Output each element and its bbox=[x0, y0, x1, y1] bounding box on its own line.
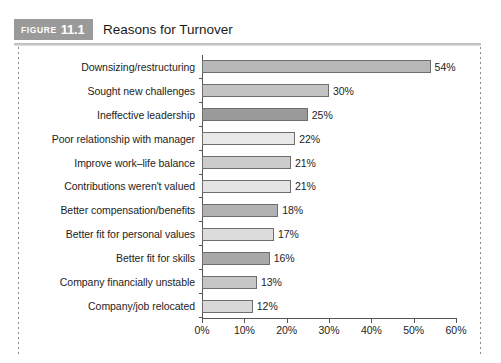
bars-list: 54%30%25%22%21%21%18%17%16%13%12% bbox=[202, 55, 470, 318]
bar bbox=[202, 60, 431, 73]
category-label: Better fit for skills bbox=[30, 246, 200, 270]
bar bbox=[202, 228, 274, 241]
bar-row: 22% bbox=[202, 127, 470, 151]
figure-title: Reasons for Turnover bbox=[103, 20, 233, 39]
bar bbox=[202, 132, 295, 145]
category-label: Improve work–life balance bbox=[30, 151, 200, 175]
figure-header: FIGURE 11.1 Reasons for Turnover bbox=[14, 19, 481, 41]
category-label: Poor relationship with manager bbox=[30, 127, 200, 151]
category-label: Better fit for personal values bbox=[30, 222, 200, 246]
chart-plot-area: Downsizing/restructuringSought new chall… bbox=[30, 55, 470, 345]
figure-container: FIGURE 11.1 Reasons for Turnover Downsiz… bbox=[0, 0, 501, 363]
bar-row: 21% bbox=[202, 175, 470, 199]
category-axis-labels: Downsizing/restructuringSought new chall… bbox=[30, 55, 200, 318]
bar-value-label: 17% bbox=[278, 228, 299, 240]
bar-value-label: 18% bbox=[282, 204, 303, 216]
bar bbox=[202, 252, 270, 265]
category-label: Contributions weren't valued bbox=[30, 175, 200, 199]
bar-value-label: 12% bbox=[257, 300, 278, 312]
x-tick-mark bbox=[329, 318, 330, 323]
bar-row: 54% bbox=[202, 55, 470, 79]
bar-value-label: 30% bbox=[333, 85, 354, 97]
bar-row: 17% bbox=[202, 222, 470, 246]
bar-value-label: 21% bbox=[295, 157, 316, 169]
left-dotted-border bbox=[18, 47, 19, 355]
x-tick-mark bbox=[456, 318, 457, 323]
x-axis-ticks bbox=[202, 318, 456, 323]
bars-region: 54%30%25%22%21%21%18%17%16%13%12% bbox=[202, 55, 470, 318]
bar bbox=[202, 204, 278, 217]
bar-value-label: 25% bbox=[312, 109, 333, 121]
x-tick-label: 60% bbox=[446, 324, 467, 336]
category-label: Better compensation/benefits bbox=[30, 198, 200, 222]
x-tick-mark bbox=[244, 318, 245, 323]
category-label: Downsizing/restructuring bbox=[30, 55, 200, 79]
bar bbox=[202, 300, 253, 313]
x-tick-label: 10% bbox=[234, 324, 255, 336]
figure-badge-word: FIGURE bbox=[21, 26, 57, 35]
bar bbox=[202, 108, 308, 121]
bar-value-label: 22% bbox=[299, 133, 320, 145]
bar-row: 12% bbox=[202, 294, 470, 318]
bar-row: 30% bbox=[202, 79, 470, 103]
bar-row: 13% bbox=[202, 270, 470, 294]
x-tick-mark bbox=[202, 318, 203, 323]
bar-value-label: 54% bbox=[435, 61, 456, 73]
bar-value-label: 13% bbox=[261, 276, 282, 288]
x-tick-mark bbox=[414, 318, 415, 323]
bar bbox=[202, 84, 329, 97]
bar-row: 25% bbox=[202, 103, 470, 127]
x-tick-label: 30% bbox=[319, 324, 340, 336]
bar-row: 18% bbox=[202, 198, 470, 222]
x-tick-label: 0% bbox=[194, 324, 209, 336]
figure-badge-number: 11.1 bbox=[61, 23, 85, 36]
bar-row: 16% bbox=[202, 246, 470, 270]
x-axis-tick-labels: 0%10%20%30%40%50%60% bbox=[202, 324, 456, 340]
x-tick-mark bbox=[371, 318, 372, 323]
bar-value-label: 21% bbox=[295, 180, 316, 192]
category-label: Sought new challenges bbox=[30, 79, 200, 103]
category-label: Company financially unstable bbox=[30, 270, 200, 294]
bar bbox=[202, 156, 291, 169]
x-tick-label: 20% bbox=[276, 324, 297, 336]
figure-badge: FIGURE 11.1 bbox=[14, 19, 93, 40]
bar-row: 21% bbox=[202, 151, 470, 175]
x-tick-label: 50% bbox=[403, 324, 424, 336]
right-dotted-border bbox=[480, 47, 481, 355]
bar bbox=[202, 180, 291, 193]
category-label: Company/job relocated bbox=[30, 294, 200, 318]
bar-value-label: 16% bbox=[274, 252, 295, 264]
category-label: Ineffective leadership bbox=[30, 103, 200, 127]
x-tick-mark bbox=[287, 318, 288, 323]
x-tick-label: 40% bbox=[361, 324, 382, 336]
header-divider bbox=[14, 43, 481, 46]
bar bbox=[202, 276, 257, 289]
